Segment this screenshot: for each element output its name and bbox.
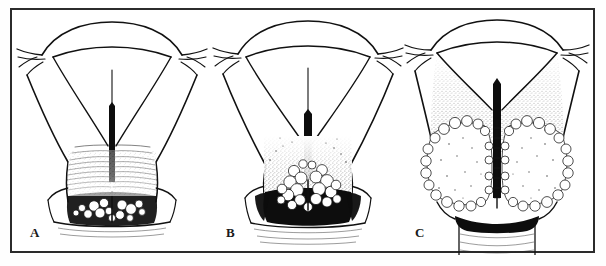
panel-c: C bbox=[397, 10, 597, 255]
panel-a: A bbox=[12, 10, 212, 255]
figure-container: A bbox=[0, 0, 606, 266]
panel-c-illustration bbox=[397, 10, 597, 255]
panel-a-illustration bbox=[12, 10, 212, 255]
panel-a-label: A bbox=[30, 225, 40, 241]
figure-frame: A bbox=[10, 8, 595, 253]
panel-b-label: B bbox=[226, 225, 235, 241]
panel-c-label: C bbox=[415, 225, 425, 241]
panel-b-illustration bbox=[208, 10, 408, 255]
panel-b: B bbox=[208, 10, 408, 255]
